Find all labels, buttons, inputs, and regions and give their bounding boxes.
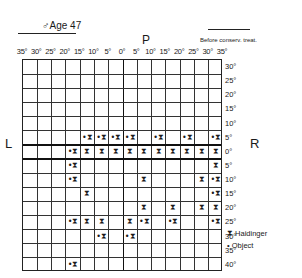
- row-label: 5°: [225, 133, 232, 142]
- haidinger-mark: ⧗: [123, 218, 137, 226]
- legend-haidinger-label: Haidinger: [235, 229, 267, 238]
- haidinger-mark: ⧗: [209, 162, 223, 170]
- haidinger-mark: ⧗: [137, 176, 151, 184]
- haidinger-icon: ⧗: [227, 229, 233, 238]
- haidinger-mark: ⧗: [80, 148, 94, 156]
- grid-vline: [194, 60, 195, 270]
- grid-hline: [23, 257, 221, 258]
- object-dot-icon: •: [227, 241, 230, 250]
- row-label: 20°: [225, 90, 236, 99]
- row-label: 10°: [225, 175, 236, 184]
- haidinger-mark: ⧗: [94, 218, 108, 226]
- top-axis-label: P: [142, 33, 150, 47]
- grid-vline: [165, 60, 166, 270]
- haidinger-mark: ⧗: [194, 148, 208, 156]
- grid-hline: [23, 243, 221, 244]
- grid-hline: [23, 215, 221, 216]
- grid-hline: [23, 229, 221, 230]
- legend-object: • Object: [227, 241, 253, 250]
- legend-object-label: Object: [232, 241, 254, 250]
- grid-hline: [23, 102, 221, 103]
- object-haidinger-mark: •⧗: [66, 148, 80, 156]
- grid-vline: [151, 60, 152, 270]
- object-haidinger-mark: •⧗: [66, 176, 80, 184]
- row-label: 30°: [225, 62, 236, 71]
- visual-field-grid: •⧗•⧗•⧗•⧗•⧗•⧗•⧗•⧗⧗⧗⧗⧗⧗⧗⧗⧗⧗⧗•⧗⧗•⧗⧗⧗•⧗⧗•⧗⧗⧗…: [22, 59, 222, 271]
- haidinger-mark: ⧗: [80, 190, 94, 198]
- object-haidinger-mark: •⧗: [123, 134, 137, 142]
- haidinger-mark: ⧗: [180, 148, 194, 156]
- object-haidinger-mark: •⧗: [80, 134, 94, 142]
- chart-title: ♂Age 47: [42, 20, 81, 31]
- title-underline: [18, 33, 76, 34]
- grid-vline: [37, 60, 38, 270]
- grid-hline: [23, 187, 221, 188]
- object-haidinger-mark: •⧗: [137, 218, 151, 226]
- grid-hline: [23, 144, 221, 146]
- column-label: 35°: [214, 47, 230, 56]
- object-haidinger-mark: •⧗: [209, 176, 223, 184]
- legend-haidinger: ⧗ Haidinger: [227, 229, 267, 239]
- object-haidinger-mark: •⧗: [66, 162, 80, 170]
- object-haidinger-mark: •⧗: [152, 134, 166, 142]
- object-haidinger-mark: •⧗: [66, 261, 80, 269]
- object-haidinger-mark: •⧗: [94, 233, 108, 241]
- haidinger-mark: ⧗: [137, 148, 151, 156]
- row-label: 15°: [225, 189, 236, 198]
- haidinger-mark: ⧗: [194, 204, 208, 212]
- object-haidinger-mark: •⧗: [209, 218, 223, 226]
- row-label: 25°: [225, 217, 236, 226]
- grid-hline: [23, 173, 221, 174]
- grid-hline: [23, 116, 221, 117]
- right-axis-label: R: [250, 136, 259, 151]
- row-label: 0°: [225, 147, 232, 156]
- row-label: 25°: [225, 76, 236, 85]
- haidinger-mark: ⧗: [80, 218, 94, 226]
- haidinger-mark: ⧗: [209, 204, 223, 212]
- object-haidinger-mark: •⧗: [66, 218, 80, 226]
- grid-hline: [23, 130, 221, 131]
- row-label: 20°: [225, 203, 236, 212]
- row-label: 5°: [225, 161, 232, 170]
- object-haidinger-mark: •⧗: [166, 218, 180, 226]
- object-haidinger-mark: •⧗: [209, 134, 223, 142]
- subtitle-overline: [208, 29, 250, 30]
- haidinger-mark: ⧗: [109, 148, 123, 156]
- object-haidinger-mark: •⧗: [209, 190, 223, 198]
- grid-hline: [23, 158, 221, 160]
- grid-vline: [51, 60, 52, 270]
- row-label: 40°: [225, 260, 236, 269]
- haidinger-mark: ⧗: [137, 204, 151, 212]
- object-haidinger-mark: •⧗: [180, 134, 194, 142]
- haidinger-mark: ⧗: [209, 148, 223, 156]
- object-haidinger-mark: •⧗: [123, 233, 137, 241]
- grid-hline: [23, 74, 221, 75]
- row-label: 10°: [225, 119, 236, 128]
- object-haidinger-mark: •⧗: [94, 134, 108, 142]
- haidinger-mark: ⧗: [152, 148, 166, 156]
- haidinger-mark: ⧗: [166, 148, 180, 156]
- object-haidinger-mark: •⧗: [109, 134, 123, 142]
- haidinger-mark: ⧗: [94, 148, 108, 156]
- grid-hline: [23, 88, 221, 89]
- left-axis-label: L: [5, 136, 12, 151]
- row-label: 15°: [225, 104, 236, 113]
- haidinger-mark: ⧗: [194, 176, 208, 184]
- chart-subtitle: Before conserv. treat.: [200, 37, 257, 43]
- grid-hline: [23, 201, 221, 202]
- grid-vline: [180, 60, 181, 270]
- haidinger-mark: ⧗: [166, 204, 180, 212]
- haidinger-mark: ⧗: [123, 148, 137, 156]
